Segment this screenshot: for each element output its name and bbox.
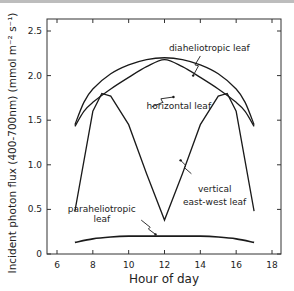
x-tick-label: 16 (230, 260, 242, 270)
y-tick-label: 0.5 (28, 204, 42, 214)
annotation-label: vertical (198, 184, 232, 194)
x-tick-label: 18 (266, 260, 278, 270)
y-tick-label: 0 (36, 249, 42, 259)
y-tick-label: 1.5 (28, 115, 42, 125)
series-diaheliotropic-leaf (75, 58, 254, 125)
series-paraheliotropic-leaf (75, 236, 254, 242)
annotation-arrow (193, 56, 200, 76)
arrow-head (172, 96, 174, 98)
annotation-label: horizontal leaf (147, 101, 212, 111)
annotation-label: east-west leaf (183, 197, 247, 207)
y-tick-label: 2.5 (28, 26, 42, 36)
y-axis-label: Incident photon flux (400-700nm) (mmol m… (6, 13, 18, 274)
y-tick-label: 2.0 (28, 71, 43, 81)
x-tick-label: 8 (90, 260, 96, 270)
annotation-label: leaf (93, 214, 111, 224)
x-tick-label: 14 (195, 260, 207, 270)
ticks: 68101214161800.51.01.52.02.5 (28, 19, 281, 270)
arrow-head (154, 233, 156, 235)
annotation-label: paraheliotropic (68, 204, 136, 214)
annotation-arrow (141, 220, 155, 234)
x-tick-label: 10 (123, 260, 135, 270)
y-tick-label: 1.0 (28, 160, 43, 170)
x-axis-label: Hour of day (129, 272, 199, 286)
arrow-head (179, 159, 181, 161)
x-tick-label: 12 (159, 260, 170, 270)
chart: 68101214161800.51.01.52.02.5 diaheliotro… (0, 0, 294, 291)
arrow-head (192, 74, 194, 76)
annotation-label: diaheliotropic leaf (169, 43, 251, 53)
x-tick-label: 6 (54, 260, 60, 270)
